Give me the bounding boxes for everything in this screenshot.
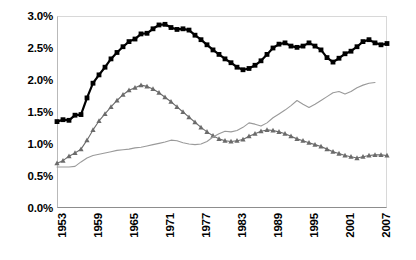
series-layer — [0, 0, 416, 260]
series-none — [57, 83, 375, 167]
chart-container: 3.0%2.5%2.0%1.5%1.0%0.5%0.0% 19531959196… — [0, 0, 416, 260]
series-square — [55, 22, 390, 124]
